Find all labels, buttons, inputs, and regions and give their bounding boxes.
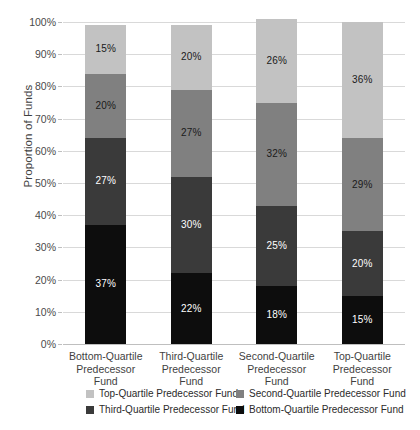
y-axis-title: Proportion of Funds	[22, 36, 34, 236]
y-tick-mark	[58, 183, 62, 184]
y-tick-mark	[58, 344, 62, 345]
x-axis-label: Second-QuartilePredecessor Fund	[234, 350, 320, 388]
legend-label: Third-Quartile Predecessor Fund	[99, 405, 245, 415]
bar-segment[interactable]: 26%	[256, 19, 297, 103]
y-tick-label: 70%	[35, 113, 56, 124]
bar-segment-value-label: 20%	[181, 52, 201, 62]
bar-group: 37%27%20%15%	[85, 22, 126, 344]
y-tick-label: 60%	[35, 146, 56, 157]
legend-label: Bottom-Quartile Predecessor Fund	[249, 405, 404, 415]
bar-segment[interactable]: 27%	[171, 90, 212, 177]
x-axis-label-line: Second-Quartile	[234, 350, 320, 363]
bar-segment-value-label: 20%	[96, 101, 116, 111]
chart-legend: Top-Quartile Predecessor FundSecond-Quar…	[86, 386, 386, 418]
bar-segment[interactable]: 22%	[171, 273, 212, 344]
x-axis-label-line: Predecessor Fund	[149, 363, 235, 388]
x-axis-label-line: Predecessor Fund	[63, 363, 149, 388]
legend-item[interactable]: Second-Quartile Predecessor Fund	[236, 389, 386, 399]
x-axis-label-line: Top-Quartile	[320, 350, 406, 363]
bar-group: 18%25%32%26%	[256, 22, 297, 344]
legend-label: Second-Quartile Predecessor Fund	[249, 389, 406, 399]
x-axis-label: Bottom-QuartilePredecessor Fund	[63, 350, 149, 388]
x-axis-label: Third-QuartilePredecessor Fund	[149, 350, 235, 388]
y-tick-label: 20%	[35, 274, 56, 285]
stacked-bar[interactable]: 37%27%20%15%	[85, 22, 126, 344]
y-tick-label: 30%	[35, 242, 56, 253]
bar-segment[interactable]: 27%	[85, 138, 126, 225]
bar-segment[interactable]: 15%	[342, 296, 383, 344]
bar-segment[interactable]: 25%	[256, 206, 297, 287]
y-tick-mark	[58, 86, 62, 87]
stacked-bar[interactable]: 18%25%32%26%	[256, 22, 297, 344]
legend-item[interactable]: Third-Quartile Predecessor Fund	[86, 405, 236, 415]
legend-swatch-icon	[236, 406, 244, 414]
y-tick-mark	[58, 247, 62, 248]
y-tick-label: 40%	[35, 210, 56, 221]
bar-segment-value-label: 15%	[352, 315, 372, 325]
bar-segment-value-label: 22%	[181, 304, 201, 314]
bar-segment[interactable]: 37%	[85, 225, 126, 344]
y-tick-label: 0%	[41, 339, 56, 350]
bar-group: 22%30%27%20%	[171, 22, 212, 344]
bar-segment-value-label: 29%	[352, 180, 372, 190]
y-tick-mark	[58, 312, 62, 313]
bar-segment-value-label: 15%	[96, 44, 116, 54]
legend-item[interactable]: Top-Quartile Predecessor Fund	[86, 389, 236, 399]
bar-segment[interactable]: 20%	[171, 25, 212, 89]
y-tick-mark	[58, 280, 62, 281]
bar-segment-value-label: 32%	[267, 149, 287, 159]
bar-segment-value-label: 20%	[352, 259, 372, 269]
y-tick-mark	[58, 54, 62, 55]
legend-swatch-icon	[86, 406, 94, 414]
bar-segment-value-label: 18%	[267, 310, 287, 320]
bar-segment-value-label: 30%	[181, 220, 201, 230]
y-tick-label: 80%	[35, 81, 56, 92]
x-axis-label-line: Third-Quartile	[149, 350, 235, 363]
bar-segment[interactable]: 18%	[256, 286, 297, 344]
y-tick-label: 50%	[35, 178, 56, 189]
y-tick-label: 10%	[35, 307, 56, 318]
x-axis-label-line: Bottom-Quartile	[63, 350, 149, 363]
y-tick-mark	[58, 22, 62, 23]
stacked-bar[interactable]: 22%30%27%20%	[171, 22, 212, 344]
y-tick-mark	[58, 119, 62, 120]
bar-segment[interactable]: 32%	[256, 103, 297, 206]
x-axis-label: Top-QuartilePredecessor Fund	[320, 350, 406, 388]
bar-segment-value-label: 27%	[96, 176, 116, 186]
gridline-0	[63, 344, 405, 345]
bar-segment-value-label: 25%	[267, 241, 287, 251]
y-tick-label: 100%	[29, 17, 56, 28]
plot-area: 0%10%20%30%40%50%60%70%80%90%100% 37%27%…	[63, 22, 405, 344]
y-tick-label: 90%	[35, 49, 56, 60]
bar-segment[interactable]: 29%	[342, 138, 383, 231]
legend-swatch-icon	[236, 390, 244, 398]
bar-segment-value-label: 37%	[96, 279, 116, 289]
bar-group: 15%20%29%36%	[342, 22, 383, 344]
legend-swatch-icon	[86, 390, 94, 398]
x-axis-label-line: Predecessor Fund	[234, 363, 320, 388]
bar-segment[interactable]: 30%	[171, 177, 212, 274]
stacked-bar[interactable]: 15%20%29%36%	[342, 22, 383, 344]
legend-label: Top-Quartile Predecessor Fund	[99, 389, 238, 399]
bar-segment[interactable]: 20%	[342, 231, 383, 295]
bar-segment[interactable]: 15%	[85, 25, 126, 73]
bar-segment[interactable]: 20%	[85, 74, 126, 138]
stacked-bar-chart: Proportion of Funds 0%10%20%30%40%50%60%…	[0, 0, 420, 430]
bar-segment-value-label: 36%	[352, 75, 372, 85]
legend-item[interactable]: Bottom-Quartile Predecessor Fund	[236, 405, 386, 415]
y-tick-mark	[58, 215, 62, 216]
bar-segment[interactable]: 36%	[342, 22, 383, 138]
y-tick-mark	[58, 151, 62, 152]
bar-segment-value-label: 26%	[267, 56, 287, 66]
x-axis-label-line: Predecessor Fund	[320, 363, 406, 388]
bar-segment-value-label: 27%	[181, 128, 201, 138]
